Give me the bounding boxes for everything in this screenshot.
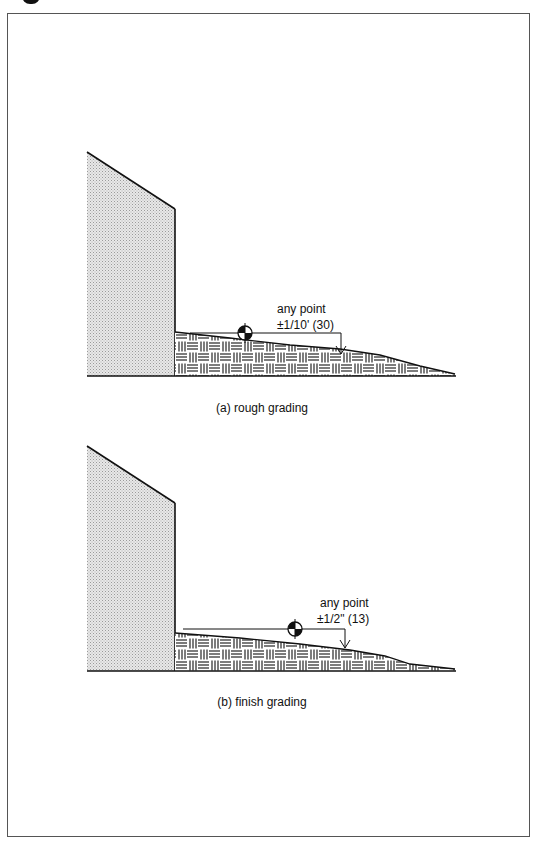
figure-a-rough-grading (87, 152, 456, 376)
annotation-any-point-b: any point (320, 596, 369, 610)
benchmark-symbol-icon (288, 619, 302, 639)
caption-a: (a) rough grading (216, 401, 308, 415)
annotation-any-point-a: any point (277, 302, 326, 316)
building-wall-a (87, 152, 175, 376)
grading-diagram (0, 0, 540, 845)
caption-b: (b) finish grading (217, 695, 306, 709)
annotation-tolerance-b: ±1/2" (13) (317, 612, 369, 626)
soil-hatch-b (175, 633, 455, 671)
building-wall-b (87, 446, 175, 671)
figure-b-finish-grading (87, 446, 456, 671)
soil-hatch-a (175, 332, 455, 376)
annotation-tolerance-a: ±1/10' (30) (277, 318, 334, 332)
